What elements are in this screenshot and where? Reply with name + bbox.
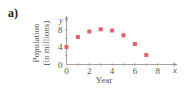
data-point [110,29,114,33]
data-point [87,29,91,33]
y-tick-label: 4 [58,42,63,52]
x-tick-label: 8 [155,66,160,76]
data-point [76,35,80,39]
x-axis-variable: x [172,65,177,75]
data-point [65,45,69,49]
y-tick-label: 8 [58,25,63,35]
data-point [144,53,148,57]
y-tick-label: 0 [58,60,63,70]
data-points [65,27,149,57]
data-point [99,27,103,31]
scatter-chart: 02468048 x y Year [0,0,189,89]
x-tick-label: 0 [64,66,69,76]
x-axis-title: Year [96,75,113,85]
y-axis-variable: y [58,15,63,25]
x-tick-label: 6 [133,66,138,76]
data-point [133,42,137,46]
x-tick-label: 2 [87,66,92,76]
axes: 02468048 [58,16,177,76]
data-point [122,33,126,37]
